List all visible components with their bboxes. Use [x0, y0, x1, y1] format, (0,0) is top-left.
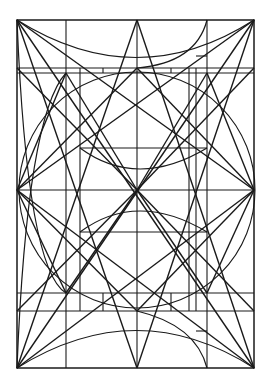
- diagonal-inner-bl: [66, 190, 137, 293]
- figure-root: Geometric page-construction armature Lin…: [0, 0, 270, 387]
- armature-diagram: [0, 0, 270, 387]
- arc-bottom-right-quarter: [137, 311, 207, 368]
- diagonal-bl-to-left-mid-short: [17, 190, 66, 293]
- diagonal-br-to-right-mid-short: [207, 190, 254, 293]
- diagonal-inner-tl: [66, 73, 137, 190]
